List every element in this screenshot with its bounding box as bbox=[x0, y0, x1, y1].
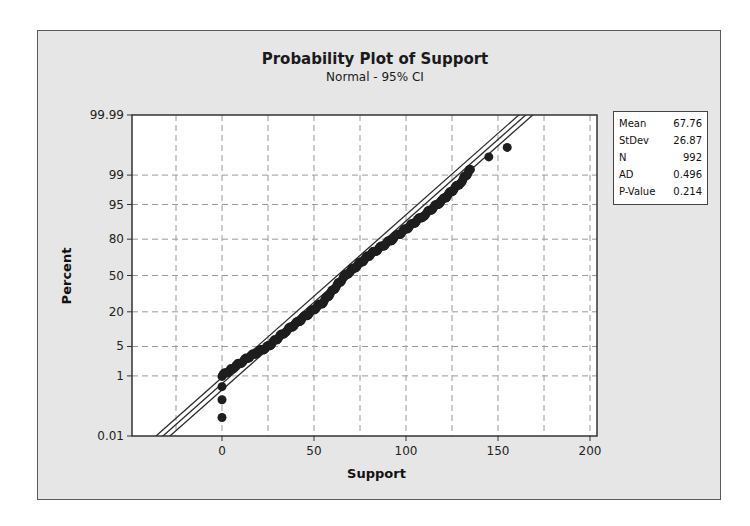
legend-row-mean: Mean 67.76 bbox=[619, 115, 702, 132]
data-point bbox=[503, 143, 512, 152]
x-tick-label: 0 bbox=[218, 444, 226, 458]
x-tick-label: 200 bbox=[579, 444, 602, 458]
y-tick-label: 20 bbox=[109, 305, 124, 319]
legend-row-stdev: StDev 26.87 bbox=[619, 132, 702, 149]
data-point bbox=[218, 395, 227, 404]
data-point bbox=[484, 152, 493, 161]
legend-row-pvalue: P-Value 0.214 bbox=[619, 183, 702, 200]
legend-row-ad: AD 0.496 bbox=[619, 166, 702, 183]
legend-row-n: N 992 bbox=[619, 149, 702, 166]
y-tick-label: 1 bbox=[116, 369, 124, 383]
x-axis-title: Support bbox=[347, 466, 406, 481]
x-tick-label: 50 bbox=[306, 444, 321, 458]
y-tick-label: 99 bbox=[109, 168, 124, 182]
y-tick-label: 50 bbox=[109, 269, 124, 283]
x-tick-label: 150 bbox=[487, 444, 510, 458]
y-tick-label: 99.99 bbox=[90, 108, 124, 122]
data-point bbox=[218, 382, 227, 391]
stats-legend: Mean 67.76 StDev 26.87 N 992 AD 0.496 P-… bbox=[613, 111, 708, 205]
x-tick-label: 100 bbox=[395, 444, 418, 458]
y-tick-label: 80 bbox=[109, 232, 124, 246]
y-axis-title: Percent bbox=[59, 248, 74, 305]
y-tick-label: 95 bbox=[109, 198, 124, 212]
y-tick-label: 0.01 bbox=[97, 429, 124, 443]
data-point bbox=[466, 165, 475, 174]
y-tick-label: 5 bbox=[116, 339, 124, 353]
data-point bbox=[218, 413, 227, 422]
probability-plot: 0501001502000.0115205080959999.99Support… bbox=[0, 0, 750, 526]
